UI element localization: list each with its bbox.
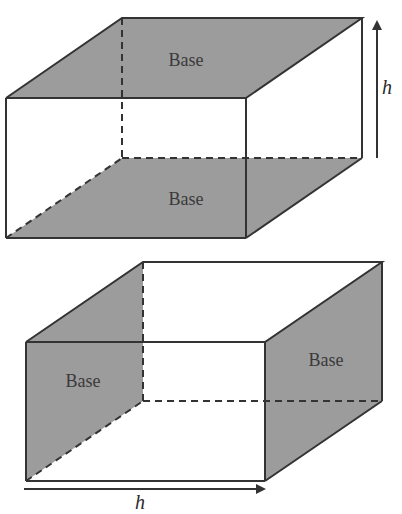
top-prism-top-base-label: Base — [169, 50, 204, 70]
bottom-prism: Base Base h — [24, 262, 382, 513]
bottom-prism-right-base — [265, 262, 382, 481]
top-prism-height-label: h — [382, 76, 392, 98]
bottom-prism-right-base-label: Base — [309, 350, 344, 370]
bottom-prism-left-base-label: Base — [66, 371, 101, 391]
top-prism: Base Base h — [6, 18, 392, 238]
prisms-diagram: Base Base h Base Base h — [0, 0, 402, 514]
bottom-prism-height-label: h — [135, 491, 145, 513]
top-prism-bottom-base-label: Base — [169, 189, 204, 209]
